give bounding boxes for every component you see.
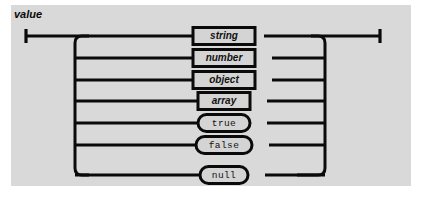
screenshot-root: value xyxy=(0,0,423,201)
node-string[interactable]: string xyxy=(193,28,255,45)
syntax-diagram-panel: value xyxy=(11,5,411,186)
node-number[interactable]: number xyxy=(193,50,255,67)
diagram-title: value xyxy=(14,8,42,20)
node-true-label: true xyxy=(212,118,236,129)
node-array[interactable]: array xyxy=(198,93,250,110)
node-number-label: number xyxy=(206,52,244,63)
node-string-label: string xyxy=(210,30,238,41)
node-null[interactable]: null xyxy=(200,167,248,184)
node-false[interactable]: false xyxy=(196,137,252,154)
node-object[interactable]: object xyxy=(193,72,255,89)
node-false-label: false xyxy=(209,140,240,151)
node-true[interactable]: true xyxy=(198,115,250,132)
node-object-label: object xyxy=(209,74,239,85)
railroad-diagram-svg: value xyxy=(11,5,411,186)
node-array-label: array xyxy=(212,95,237,106)
node-null-label: null xyxy=(212,170,236,181)
